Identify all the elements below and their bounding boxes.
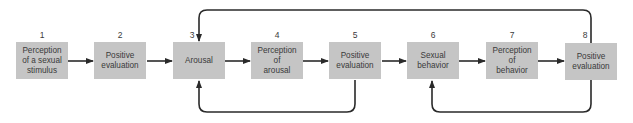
step-label-5: Positive evaluation <box>336 51 373 71</box>
step-box-5: Positive evaluation <box>329 42 381 79</box>
step-label-1: Perception of a sexual stimulus <box>22 46 62 76</box>
step-box-7: Perception of behavior <box>486 42 538 79</box>
step-number-5: 5 <box>349 30 361 40</box>
step-box-3: Arousal <box>173 42 225 79</box>
step-box-4: Perception of arousal <box>251 42 303 79</box>
step-label-2: Positive evaluation <box>101 51 138 71</box>
step-box-2: Positive evaluation <box>94 42 146 79</box>
step-number-1: 1 <box>36 30 48 40</box>
step-label-6: Sexual behavior <box>417 51 448 71</box>
step-number-2: 2 <box>114 30 126 40</box>
loop-8-to-3 <box>199 10 591 43</box>
step-box-8: Positive evaluation <box>565 43 617 80</box>
step-label-7: Perception of behavior <box>492 46 531 76</box>
step-label-4: Perception of arousal <box>257 46 296 76</box>
step-label-3: Arousal <box>185 56 213 66</box>
flow-diagram: 1 Perception of a sexual stimulus 2 Posi… <box>0 0 633 123</box>
step-label-8: Positive evaluation <box>572 52 609 72</box>
loop-8-to-6 <box>432 80 591 112</box>
step-number-7: 7 <box>506 30 518 40</box>
step-box-6: Sexual behavior <box>407 42 459 79</box>
step-number-8: 8 <box>579 30 591 40</box>
loop-5-to-3 <box>199 80 355 112</box>
step-number-3: 3 <box>186 30 198 40</box>
step-number-4: 4 <box>271 30 283 40</box>
step-box-1: Perception of a sexual stimulus <box>16 42 68 79</box>
step-number-6: 6 <box>427 30 439 40</box>
